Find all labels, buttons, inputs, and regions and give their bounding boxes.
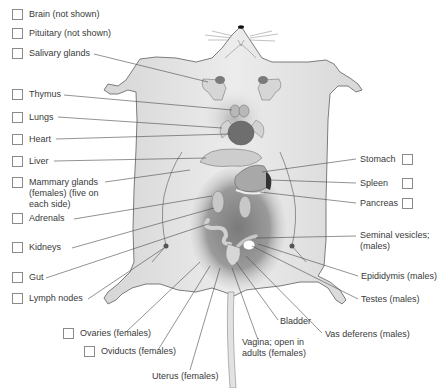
nose <box>238 25 244 29</box>
checkbox-pancreas[interactable] <box>402 198 413 209</box>
label-mammary-glands: Mammary glands (females) (five on each s… <box>12 177 99 210</box>
label-ovaries: Ovaries (females) <box>63 328 151 339</box>
checkbox-oviducts[interactable] <box>84 346 95 357</box>
checkbox-salivary-glands[interactable] <box>12 48 23 59</box>
tail <box>227 292 236 388</box>
checkbox-spleen[interactable] <box>402 178 413 189</box>
label-lymph-nodes: Lymph nodes <box>12 293 83 304</box>
checkbox-ovaries[interactable] <box>63 328 74 339</box>
label-adrenals: Adrenals <box>12 213 65 224</box>
label-spleen: Spleen <box>360 178 413 189</box>
checkbox-lymph-nodes[interactable] <box>12 293 23 304</box>
checkbox-kidneys[interactable] <box>12 242 23 253</box>
kidney-left <box>212 191 224 213</box>
heart-shape <box>228 121 254 145</box>
checkbox-adrenals[interactable] <box>12 213 23 224</box>
kidney-right <box>239 196 251 218</box>
label-thymus: Thymus <box>12 89 61 100</box>
label-vas-deferens: Vas deferens (males) <box>325 329 410 340</box>
checkbox-gut[interactable] <box>12 272 23 283</box>
label-brain: Brain (not shown) <box>12 9 100 20</box>
label-pituitary: Pituitary (not shown) <box>12 28 111 39</box>
label-gut: Gut <box>12 272 44 283</box>
label-epididymis: Epididymis (males) <box>361 271 437 282</box>
label-oviducts: Oviducts (females) <box>84 346 176 357</box>
checkbox-mammary-glands[interactable] <box>12 177 23 188</box>
label-bladder: Bladder <box>280 316 311 327</box>
label-uterus: Uterus (females) <box>152 371 219 382</box>
checkbox-lungs[interactable] <box>12 112 23 123</box>
label-vagina: Vagina; open in adults (females) <box>242 337 306 359</box>
lymph-node-left <box>164 244 169 249</box>
testis-shape <box>243 240 255 250</box>
label-liver: Liver <box>12 156 49 167</box>
checkbox-liver[interactable] <box>12 156 23 167</box>
checkbox-thymus[interactable] <box>12 89 23 100</box>
label-pancreas: Pancreas <box>360 198 413 209</box>
label-seminal-vesicles: Seminal vesicles; (males) <box>360 230 430 252</box>
checkbox-pituitary[interactable] <box>12 28 23 39</box>
label-heart: Heart <box>12 134 51 145</box>
checkbox-brain[interactable] <box>12 9 23 20</box>
label-kidneys: Kidneys <box>12 242 61 253</box>
checkbox-stomach[interactable] <box>402 154 413 165</box>
checkbox-heart[interactable] <box>12 134 23 145</box>
label-stomach: Stomach <box>360 154 413 165</box>
mouse-anatomy-diagram: Brain (not shown) Pituitary (not shown) … <box>0 0 445 388</box>
label-lungs: Lungs <box>12 112 54 123</box>
lymph-node-right <box>290 244 295 249</box>
label-testes: Testes (males) <box>361 294 420 305</box>
label-salivary-glands: Salivary glands <box>12 48 90 59</box>
